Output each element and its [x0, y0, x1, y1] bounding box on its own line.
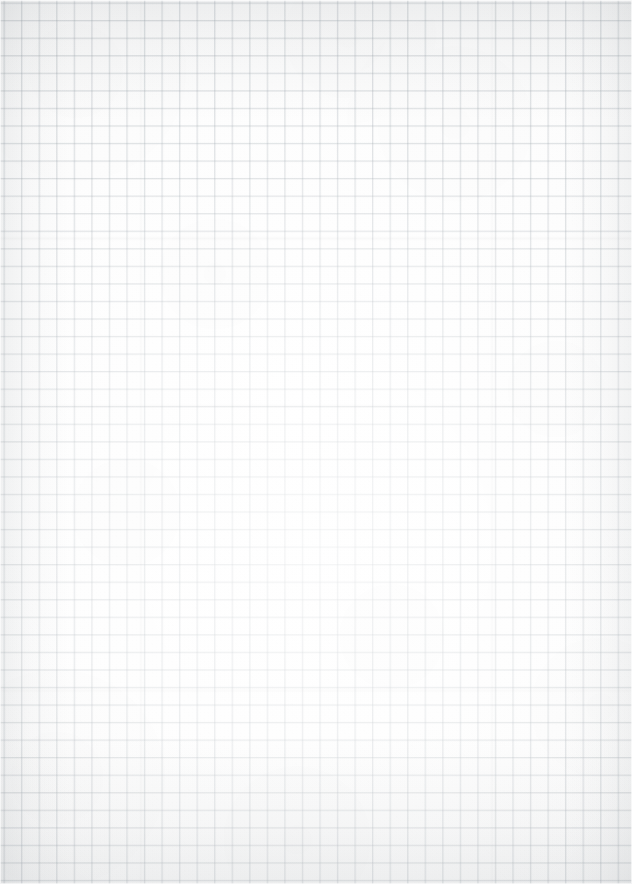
page-content-area — [0, 0, 632, 884]
graph-paper-sheet — [0, 0, 632, 884]
